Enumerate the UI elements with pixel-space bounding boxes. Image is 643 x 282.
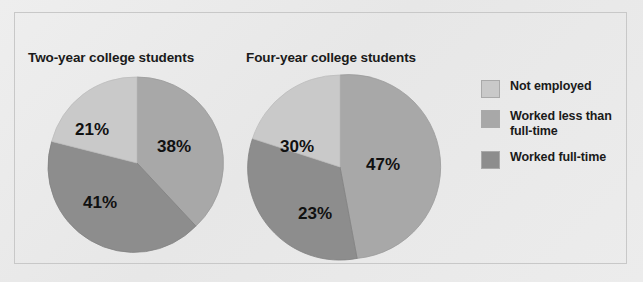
legend-label-worked-full-time: Worked full-time: [510, 150, 606, 165]
legend-item-not-employed: Not employed: [481, 79, 631, 98]
slice-label-four-year-23: 23%: [298, 204, 332, 223]
legend-swatch-not-employed: [481, 80, 500, 98]
legend-label-worked-less-than-full-time: Worked less than full-time: [510, 109, 622, 139]
chart-figure: Two-year college students 38% 41% 21% Fo…: [0, 0, 643, 282]
slice-label-four-year-47: 47%: [366, 155, 400, 174]
pie-slices-four-year: [248, 75, 441, 260]
legend-swatch-worked-less-than-full-time: [481, 110, 500, 128]
legend-label-not-employed: Not employed: [510, 79, 591, 94]
slice-label-four-year-30: 30%: [280, 137, 314, 156]
chart-legend: Not employed Worked less than full-time …: [481, 79, 631, 180]
legend-item-worked-full-time: Worked full-time: [481, 150, 631, 169]
legend-swatch-worked-full-time: [481, 151, 500, 169]
legend-item-worked-less-than-full-time: Worked less than full-time: [481, 109, 631, 139]
